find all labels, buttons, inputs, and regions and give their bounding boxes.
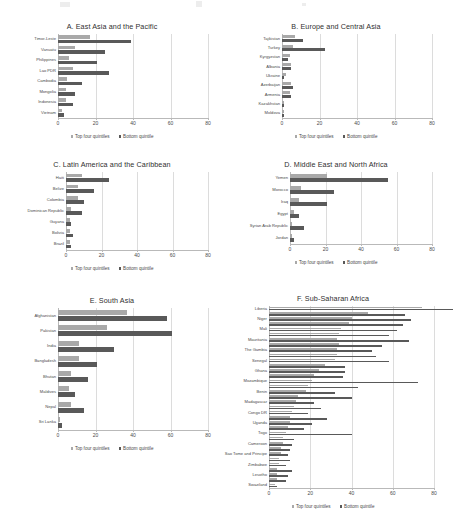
bar-top-four-quintiles [66,240,70,244]
category-label: Cambodia [37,79,56,83]
category-label: Uganda [253,421,267,425]
panel-c: C. Latin America and the Caribbean Haiti… [8,160,216,284]
bar-rows: Timor-LesteVanuatuPhilippinesLao PDRCamb… [58,34,208,118]
bars [58,369,208,384]
tick-label: 60 [168,433,174,438]
category-label: Syrian Arab Republic [250,224,288,228]
tick-label: 60 [170,253,176,258]
legend-item-bottom-quintile: Bottom quintile [340,504,375,509]
bar-bottom-quintile [269,330,397,332]
category-label: Armenia [265,93,280,97]
tick-label: 20 [93,121,99,126]
category-label: Yemen [275,176,288,180]
tick-label: 0 [65,253,68,258]
bar-top-four-quintiles [58,325,107,330]
bars [58,339,208,354]
tick-label: 60 [394,247,400,252]
bar-bottom-quintile [58,71,109,74]
bars [282,90,432,99]
legend: Top four quintilesBottom quintile [8,446,216,451]
gridline [208,308,209,430]
bar-top-four-quintiles [58,356,79,361]
bar-group: Philippines [58,55,208,66]
category-label: Benin [257,390,267,394]
bar-bottom-quintile [269,449,290,451]
bar-group: Egypt [290,208,432,220]
bar-top-four-quintiles [58,46,75,49]
category-label: Guyana [50,220,64,224]
bars [290,172,432,184]
bar-group: Cambodia [58,76,208,87]
legend-label: Top four quintiles [299,260,334,265]
bars [290,184,432,196]
category-label: Liberia [255,307,267,311]
legend-swatch [343,135,346,138]
bar-top-four-quintiles [58,109,62,112]
bars [290,196,432,208]
bar-group: Lao PDR [58,66,208,77]
bars [290,208,432,220]
bar-group: Kyrgyzstan [282,53,432,62]
tick-label: 80 [429,247,435,252]
bar-bottom-quintile [269,486,277,488]
bars [58,400,208,415]
legend-label: Bottom quintile [347,260,377,265]
bar-bottom-quintile [269,408,321,410]
category-label: Bangladesh [34,359,56,363]
bar-bottom-quintile [282,48,325,51]
legend: Top four quintilesBottom quintile [8,134,216,139]
bar-bottom-quintile [269,428,304,430]
bar-group: Bangladesh [58,354,208,369]
category-label: Haiti [56,176,64,180]
legend: Top four quintilesBottom quintile [232,134,440,139]
legend-swatch [295,261,298,264]
bar-bottom-quintile [282,39,303,42]
bar-bottom-quintile [58,113,64,116]
bar-rows: YemenMoroccoIraqEgyptSyrian Arab Republi… [290,172,432,244]
bar-top-four-quintiles [282,101,284,104]
panel-b-plot: TajikistanTurkeyKyrgyzstanAlbaniaUkraine… [282,34,432,118]
legend: Top four quintilesBottom quintile [232,260,440,265]
bar-group: Ukraine [282,71,432,80]
bar-bottom-quintile [269,387,358,389]
bar-top-four-quintiles [290,210,294,214]
bar-group: Bhutan [58,369,208,384]
bar-group: Bolivia [66,228,208,239]
bar-bottom-quintile [269,470,292,472]
category-label: Madagascar [244,400,267,404]
tick-label: 80 [205,121,211,126]
bar-group: Maldives [58,384,208,399]
bar-rows: TajikistanTurkeyKyrgyzstanAlbaniaUkraine… [282,34,432,118]
bar-bottom-quintile [269,460,290,462]
legend-swatch [71,135,74,138]
panel-d: D. Middle East and North Africa YemenMor… [232,160,440,284]
legend-swatch [119,267,122,270]
category-label: Nepal [45,405,56,409]
bar-bottom-quintile [58,82,82,85]
bar-bottom-quintile [290,190,334,194]
gridline [434,306,435,488]
bar-bottom-quintile [269,361,389,363]
bar-group: Sri Lanka [58,415,208,430]
category-label: Lesotho [252,473,267,477]
bar-bottom-quintile [66,178,109,182]
bars [290,220,432,232]
bar-group: Azerbaijan [282,81,432,90]
bar-group: Moldova [282,109,432,118]
bar-group: Syrian Arab Republic [290,220,432,232]
category-label: Afghanistan [34,314,56,318]
bar-bottom-quintile [269,335,389,337]
bars [58,34,208,45]
bars [58,55,208,66]
bar-group: Indonesia [58,97,208,108]
bar-bottom-quintile [269,418,327,420]
bar-group: Colombia [66,194,208,205]
tick-label: 40 [134,253,140,258]
bars [66,205,208,216]
category-label: Togo [258,431,267,435]
bars [58,415,208,430]
bar-rows: HaitiBelizeColombiaDominican RepublicGuy… [66,172,208,250]
bar-bottom-quintile [58,347,114,352]
tick-label: 20 [307,491,313,496]
bar-bottom-quintile [269,371,345,373]
